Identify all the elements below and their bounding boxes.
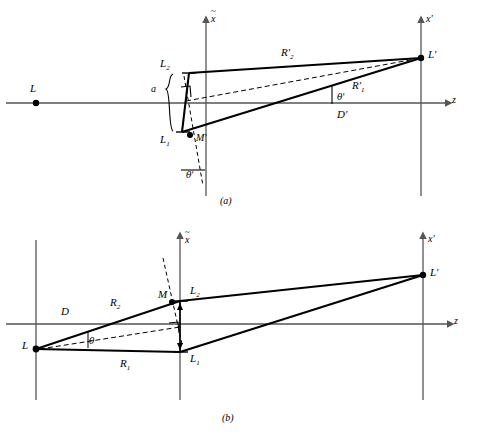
panel-b-label-D: D [61, 306, 69, 317]
panel-b-label-xprime-axis: x' [428, 234, 435, 244]
panel-a-label-R1prime: R'1 [352, 80, 365, 94]
panel-b-label-xtilde-axis: x~ [185, 235, 189, 245]
panel-b-ray-R2 [36, 301, 180, 349]
panel-b-label-M: M [158, 289, 167, 300]
panel-a-label-theta-prime-upper: θ' [337, 93, 345, 102]
panel-a-label-Mprime: M' [196, 133, 206, 143]
panel-b-ray-R1 [36, 349, 180, 352]
panel-b-aperture-arrow-up [177, 303, 183, 310]
panel-a-label-theta-prime-lower: θ' [186, 171, 194, 180]
panel-a-point-L [33, 100, 39, 106]
panel-a-caption: (a) [220, 196, 232, 206]
panel-b-label-R2: R2 [110, 297, 120, 311]
panel-a-group [6, 22, 446, 196]
panel-a-label-z-axis: z [452, 95, 456, 105]
panel-b-label-z-axis: z [454, 316, 458, 326]
panel-b-label-Lprime: L' [430, 267, 438, 278]
diagram-svg [0, 0, 479, 436]
panel-b-label-R1: R1 [120, 358, 130, 372]
panel-b-label-theta: θ [89, 337, 94, 346]
panel-a-point-Mprime [187, 132, 193, 138]
panel-b-aperture-arrow-down [177, 343, 183, 350]
panel-b-label-L2: L2 [190, 285, 200, 299]
panel-a-label-R2prime: R'2 [281, 47, 294, 61]
panel-b-label-L1: L1 [190, 353, 200, 367]
panel-a-label-L: L [30, 83, 36, 94]
panel-a-ray-R2prime [189, 58, 421, 73]
panel-b-group [6, 238, 448, 400]
panel-b-caption: (b) [222, 413, 234, 423]
panel-a-label-Dprime: D' [337, 109, 347, 120]
figure-canvas: L L2 L1 M' L' R'2 R'1 D' θ' θ' a x~ x' z… [0, 0, 479, 436]
panel-b-ray-L2-Lprime [180, 275, 423, 301]
panel-a-label-Lprime: L' [428, 49, 436, 60]
panel-a-label-aperture-a: a [151, 84, 156, 94]
panel-b-label-L: L [22, 340, 28, 351]
panel-a-label-xtilde-axis: x~ [211, 14, 215, 24]
panel-b-dashed-bisector [40, 327, 180, 349]
panel-a-label-L2: L2 [160, 58, 170, 72]
panel-a-label-xprime-axis: x' [426, 14, 433, 24]
panel-b-ray-L1-Lprime [180, 275, 423, 352]
panel-a-label-L1: L1 [160, 134, 170, 148]
